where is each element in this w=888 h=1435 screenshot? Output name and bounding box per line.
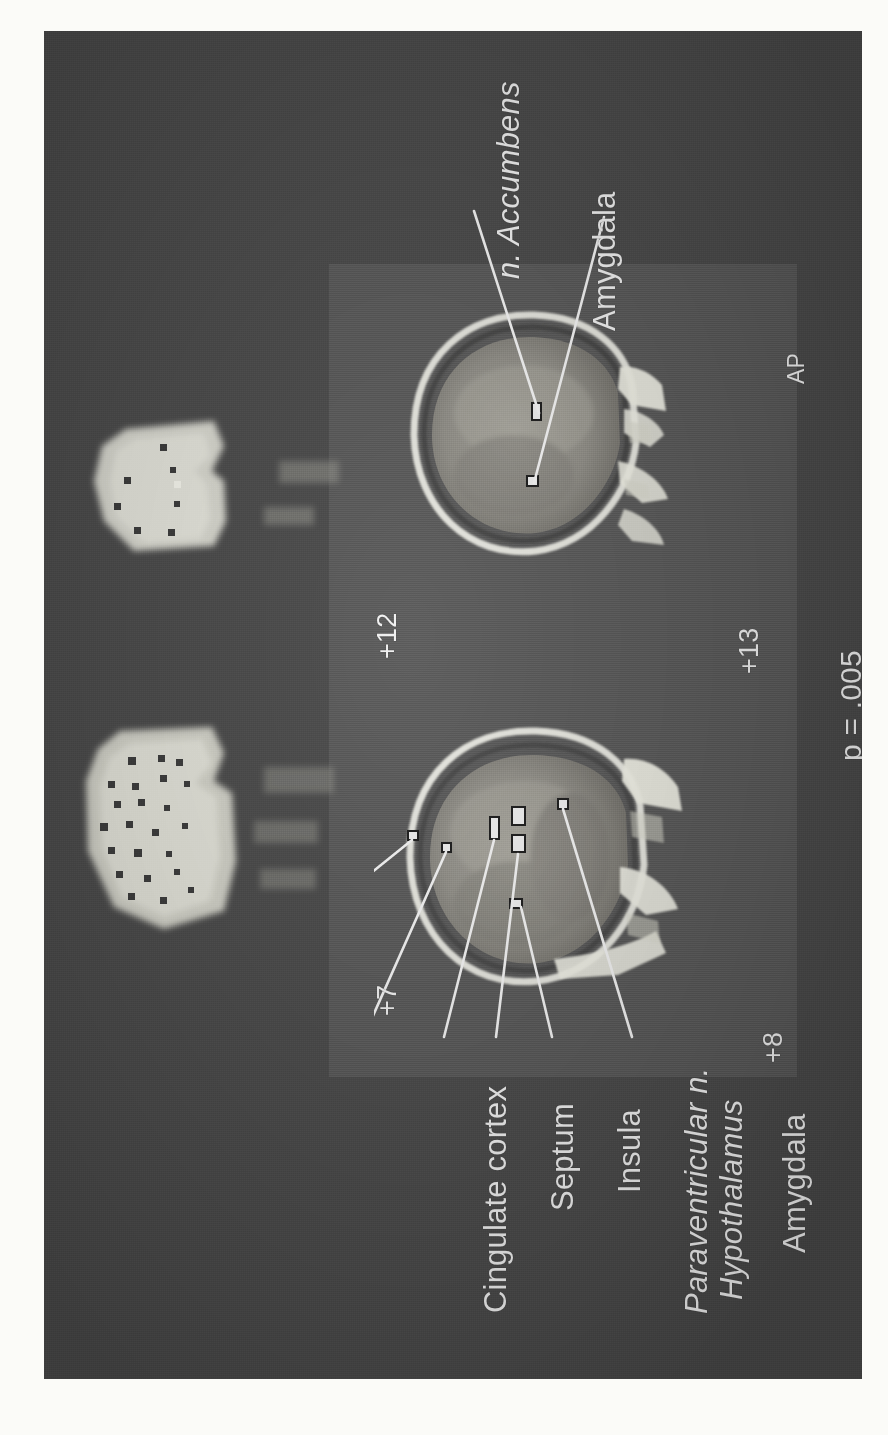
leader-lines-lower (374, 707, 774, 1127)
figure-page: n. Accumbens Amygdala AP +12 +13 +7 +8 p… (0, 0, 888, 1435)
label-insula: Insula (612, 1109, 648, 1193)
leader-lines-upper (374, 151, 734, 601)
pet-activation-blob-upper (64, 321, 364, 601)
label-n-accumbens: n. Accumbens (491, 81, 527, 279)
label-slice-plus-8: +8 (758, 1032, 789, 1063)
pet-activation-blob-lower (64, 671, 384, 1001)
label-slice-plus-12: +12 (372, 613, 403, 659)
scanned-figure-plate: n. Accumbens Amygdala AP +12 +13 +7 +8 p… (44, 31, 862, 1379)
label-cingulate-cortex: Cingulate cortex (478, 1086, 514, 1313)
label-amygdala-upper: Amygdala (587, 192, 623, 331)
label-slice-plus-7: +7 (372, 985, 403, 1016)
label-hypothalamus: Hypothalamus (714, 1099, 750, 1300)
label-ap-orientation: AP (783, 353, 810, 384)
label-paraventricular-n: Paraventricular n. (679, 1067, 715, 1314)
label-p-value: p = .005 (834, 650, 862, 761)
label-septum: Septum (545, 1103, 581, 1211)
label-slice-plus-13: +13 (734, 628, 765, 674)
label-amygdala-lower: Amygdala (777, 1114, 813, 1253)
